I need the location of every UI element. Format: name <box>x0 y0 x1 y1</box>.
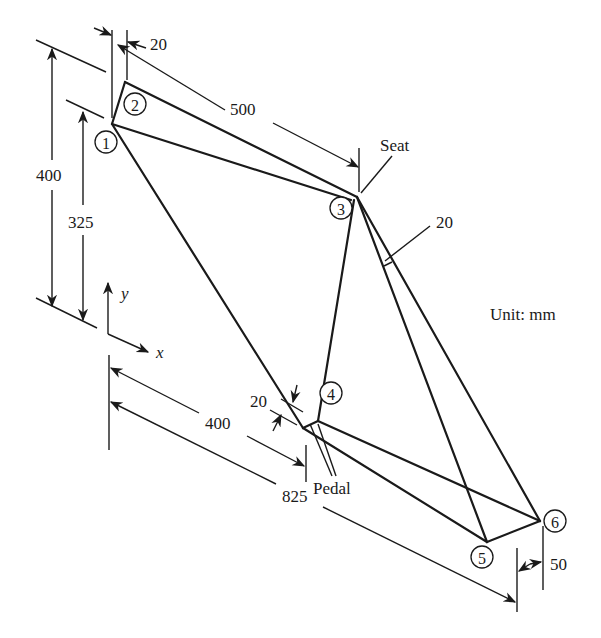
seat-callout: Seat <box>361 136 410 193</box>
unit-label: Unit: mm <box>490 305 556 324</box>
node-1: 1 <box>95 131 117 153</box>
svg-text:5: 5 <box>478 550 486 567</box>
dim-heights: 400 325 <box>36 40 106 328</box>
dim-top-offset-label: 20 <box>150 35 167 54</box>
dim-top-tube: 500 <box>118 45 359 192</box>
node-4: 4 <box>320 382 342 404</box>
svg-text:2: 2 <box>131 97 139 114</box>
node-5: 5 <box>471 546 493 568</box>
member-1-2 <box>112 82 125 124</box>
svg-text:1: 1 <box>102 135 110 152</box>
dim-seat-tube-offset-label: 20 <box>436 213 453 232</box>
member-5-6 <box>487 521 540 542</box>
dim-pedal-offset-label: 20 <box>250 392 267 411</box>
pedal-label: Pedal <box>313 479 351 498</box>
svg-text:4: 4 <box>327 386 335 403</box>
dim-pedal-offset: 20 <box>250 385 303 431</box>
dim-pedal-distance-label: 400 <box>205 414 231 433</box>
bicycle-frame-diagram: 20 500 Seat 400 325 y x 20 Unit: mm <box>0 0 601 638</box>
dim-height-node1-label: 325 <box>68 213 94 232</box>
dim-height-total-label: 400 <box>36 166 62 185</box>
dim-rear-offset-label: 50 <box>550 555 567 574</box>
node-3: 3 <box>330 197 352 219</box>
svg-text:3: 3 <box>337 201 345 218</box>
dim-seat-tube-offset: 20 <box>384 213 453 266</box>
member-3-6 <box>357 197 540 521</box>
member-3-5 <box>357 197 487 542</box>
dim-rear-offset: 50 <box>519 526 567 590</box>
dim-top-tube-label: 500 <box>230 100 256 119</box>
y-axis-label: y <box>119 284 129 303</box>
dim-rear-distance-label: 825 <box>282 487 308 506</box>
node-2: 2 <box>124 93 146 115</box>
svg-text:6: 6 <box>551 514 559 531</box>
seat-label: Seat <box>380 136 410 155</box>
x-axis-label: x <box>155 343 164 362</box>
node-6: 6 <box>544 510 566 532</box>
coordinate-axes: y x <box>108 283 164 362</box>
